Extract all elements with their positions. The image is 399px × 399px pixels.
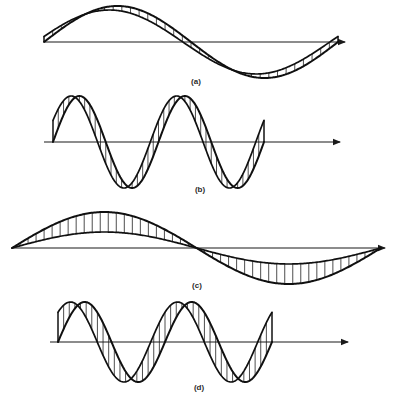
figure-canvas: (a)(b)(c)(d): [0, 0, 399, 399]
panel-label-c: (c): [192, 281, 202, 290]
panel-label-a: (a): [191, 77, 201, 86]
panel-label-d: (d): [194, 383, 205, 392]
panel-label-b: (b): [195, 185, 206, 194]
wave-phase-figure: (a)(b)(c)(d): [0, 0, 399, 399]
